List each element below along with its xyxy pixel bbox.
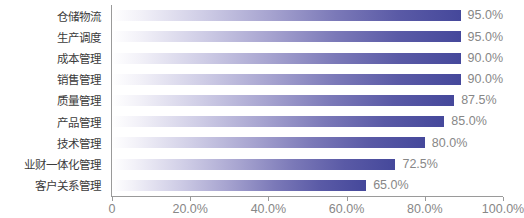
category-label: 客户关系管理 — [0, 175, 106, 196]
bar-value-label: 87.5% — [461, 94, 496, 107]
bar-value-label: 90.0% — [468, 52, 503, 65]
value-axis-tick-labels: 020.0%40.0%60.0%80.0%100.0% — [0, 202, 519, 218]
bar — [112, 159, 395, 170]
value-axis-tick — [190, 197, 191, 201]
value-axis-tick-label: 20.0% — [172, 202, 207, 216]
value-axis-tick — [425, 197, 426, 201]
category-label: 仓储物流 — [0, 5, 106, 26]
bar — [112, 74, 461, 85]
bar-row: 95.0% — [112, 5, 503, 26]
value-axis-tick-label: 100.0% — [482, 202, 524, 216]
bar-series: 95.0% 95.0% 90.0% 90.0% 87.5% 85.0% 80.0… — [112, 5, 503, 196]
bar-row: 85.0% — [112, 111, 503, 132]
category-label: 业财一体化管理 — [0, 154, 106, 175]
bar — [112, 31, 461, 42]
category-label: 技术管理 — [0, 132, 106, 153]
bar — [112, 116, 444, 127]
bar-row: 72.5% — [112, 154, 503, 175]
bar-row: 65.0% — [112, 175, 503, 196]
bar-row: 87.5% — [112, 90, 503, 111]
bar-value-label: 95.0% — [468, 9, 503, 22]
bar-value-label: 85.0% — [451, 115, 486, 128]
value-axis-tick-label: 0 — [109, 202, 116, 216]
value-axis-tick-label: 80.0% — [407, 202, 442, 216]
bar-value-label: 90.0% — [468, 73, 503, 86]
value-axis-tick — [112, 197, 113, 201]
bar — [112, 180, 366, 191]
category-label: 生产调度 — [0, 26, 106, 47]
value-axis-tick — [268, 197, 269, 201]
bar — [112, 10, 461, 21]
value-axis-tick-label: 60.0% — [329, 202, 364, 216]
value-axis-tick-label: 40.0% — [251, 202, 286, 216]
value-axis-tick — [503, 197, 504, 201]
bar — [112, 137, 425, 148]
category-label: 质量管理 — [0, 90, 106, 111]
bar-row: 90.0% — [112, 47, 503, 68]
bar-row: 90.0% — [112, 69, 503, 90]
bar — [112, 53, 461, 64]
category-label: 销售管理 — [0, 69, 106, 90]
bar-value-label: 95.0% — [468, 31, 503, 44]
bar-value-label: 65.0% — [373, 179, 408, 192]
bar-row: 80.0% — [112, 132, 503, 153]
category-label: 产品管理 — [0, 111, 106, 132]
category-axis-labels: 仓储物流 生产调度 成本管理 销售管理 质量管理 产品管理 技术管理 业财一体化… — [0, 5, 106, 196]
bar — [112, 95, 454, 106]
category-label: 成本管理 — [0, 47, 106, 68]
bar-value-label: 72.5% — [402, 158, 437, 171]
bar-value-label: 80.0% — [432, 137, 467, 150]
value-axis-tick — [347, 197, 348, 201]
bar-row: 95.0% — [112, 26, 503, 47]
